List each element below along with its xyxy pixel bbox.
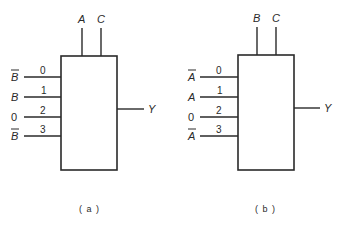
mux-b-signal-2: 0 [188,111,194,123]
mux-a-signal-3: B [11,130,18,142]
mux-a-index-3: 3 [40,124,46,135]
mux-b-select-label-0: B [253,12,260,24]
mux-a-select-label-0: A [77,13,85,25]
mux-a-signal-1: B [11,91,18,103]
mux-b-output-label: Y [324,102,332,114]
mux-b-select-label-1: C [272,12,280,24]
mux-b-index-1: 1 [217,85,223,96]
mux-a-index-2: 2 [40,105,46,116]
mux-a-index-0: 0 [40,65,46,76]
mux-b-index-2: 2 [216,105,222,116]
mux-b-signal-0: A [187,71,195,83]
mux-b-body [238,55,294,170]
figure-canvas: A C 0 1 2 3 B B 0 B Y ( a ) B C [0,0,344,225]
mux-b-index-3: 3 [216,124,222,135]
mux-b-signal-1: A [187,91,195,103]
mux-a-index-1: 1 [41,85,47,96]
mux-b-signal-3: A [187,130,195,142]
mux-b-caption: ( b ) [255,204,276,214]
mux-a-signal-0: B [11,71,18,83]
multiplexer-b: B C 0 1 2 3 A A 0 A Y ( b ) [187,12,332,214]
mux-b-index-0: 0 [216,65,222,76]
mux-a-select-label-1: C [97,13,105,25]
mux-a-caption: ( a ) [79,204,100,214]
mux-a-body [61,56,117,170]
mux-a-signal-2: 0 [11,111,17,123]
mux-a-output-label: Y [148,103,156,115]
multiplexer-a: A C 0 1 2 3 B B 0 B Y ( a ) [11,13,156,214]
